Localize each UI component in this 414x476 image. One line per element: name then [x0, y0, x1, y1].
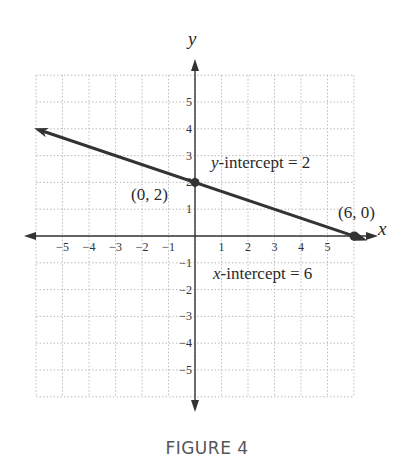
x-intercept-annotation: x-intercept = 6 [212, 264, 312, 283]
axes [24, 59, 378, 412]
y-var: y [209, 153, 219, 172]
y-tick-label: −3 [179, 309, 192, 323]
x-tick-label: 5 [325, 240, 331, 254]
y-tick-label: 3 [186, 149, 192, 163]
y-tick-label: 1 [186, 202, 192, 216]
y-tick-label: 4 [186, 122, 192, 136]
coordinate-plane: −5−4−3−2−11234554321−1−2−3−4−5 y x (0, 2… [0, 0, 414, 476]
x-tick-label: −2 [136, 240, 149, 254]
x-tick-label: 3 [272, 240, 278, 254]
intercept-point-dot [191, 178, 200, 187]
x-tick-label: 2 [245, 240, 251, 254]
y-axis-up-arrow-icon [191, 59, 199, 71]
plotted-line [34, 128, 367, 241]
y-tick-label: −5 [179, 363, 192, 377]
x-tick-label: −1 [162, 240, 175, 254]
x-tick-label: −3 [109, 240, 122, 254]
y-axis-down-arrow-icon [191, 400, 199, 412]
x-axis-label: x [377, 218, 387, 239]
y-intercept-annotation: y-intercept = 2 [209, 153, 310, 172]
x-tick-label: 4 [298, 240, 304, 254]
x-tick-label: −5 [56, 240, 69, 254]
x-axis-left-arrow-icon [24, 232, 36, 240]
y-axis-label: y [186, 28, 197, 49]
y-intercept-point-label: (0, 2) [131, 185, 168, 204]
y-tick-label: 5 [186, 95, 192, 109]
x-tick-label: 1 [219, 240, 225, 254]
y-tick-label: −1 [179, 256, 192, 270]
x-intercept-text: -intercept = 6 [221, 264, 313, 283]
x-tick-label: −4 [83, 240, 96, 254]
y-intercept-text: -intercept = 2 [219, 153, 311, 172]
figure-caption: FIGURE 4 [0, 438, 414, 458]
y-tick-label: −4 [179, 336, 192, 350]
x-axis-right-arrow-icon [366, 232, 378, 240]
line-segment [42, 131, 362, 239]
x-intercept-point-label: (6, 0) [338, 203, 375, 222]
intercept-point-dot [350, 232, 359, 241]
y-tick-label: −2 [179, 283, 192, 297]
